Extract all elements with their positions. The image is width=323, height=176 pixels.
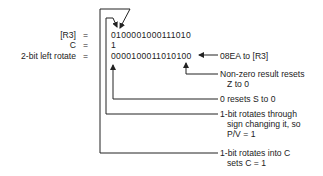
eq-3: = xyxy=(83,51,88,61)
eq-1: = xyxy=(83,30,88,40)
annotation-zero-2: Z to 0 xyxy=(227,79,249,89)
annotation-result: 08EA to [R3] xyxy=(220,51,268,61)
label-r3: [R3] xyxy=(40,30,76,40)
eq-2: = xyxy=(83,40,88,50)
value-c: 1 xyxy=(111,40,116,50)
annotation-overflow-1: 1-bit rotates through xyxy=(220,109,297,119)
value-r3: 0100001000111010 xyxy=(111,30,191,40)
annotation-sign: 0 resets S to 0 xyxy=(220,94,275,104)
annotation-overflow-2: sign changing it, so xyxy=(227,119,301,129)
annotation-overflow-3: P/V = 1 xyxy=(227,129,255,139)
annotation-carry-2: sets C = 1 xyxy=(227,158,266,168)
label-rotate: 2-bit left rotate xyxy=(0,51,76,61)
annotation-zero-1: Non-zero result resets xyxy=(220,69,305,79)
annotation-carry-1: 1-bit rotates into C xyxy=(220,148,290,158)
value-result: 0000100011010100 xyxy=(111,51,192,61)
label-c: C xyxy=(40,40,76,50)
